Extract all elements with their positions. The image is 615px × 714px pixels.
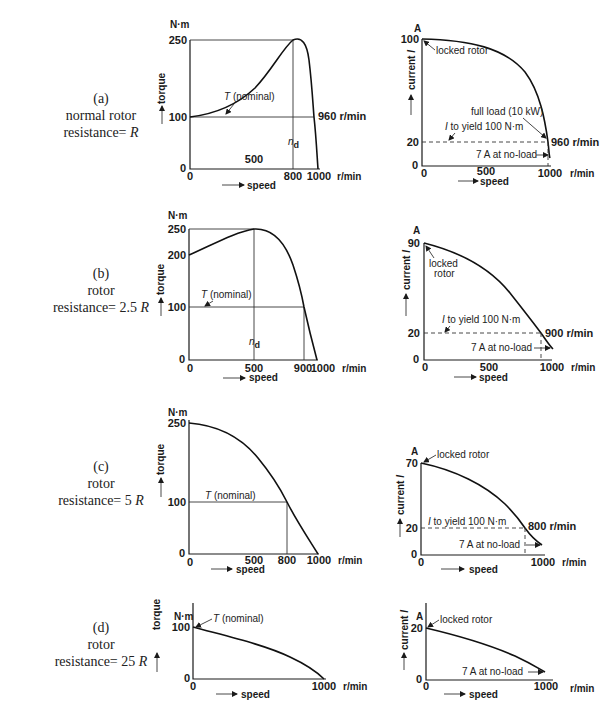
y-tick: 0 xyxy=(411,548,417,560)
full-load-arrow-icon xyxy=(523,118,546,138)
y-tick: 100 xyxy=(168,496,186,508)
y-tick: 20 xyxy=(406,522,418,534)
x-tick: 1000 xyxy=(311,362,335,374)
y-tick: 250 xyxy=(168,417,186,429)
x-tick: 500 xyxy=(245,153,263,165)
chart-d-torque: N·m 100 0 torque T (nominal) 0 1000 r/mi… xyxy=(151,598,367,700)
chart-b-torque: N·m 250 200 100 0 torque T (nominal) nd … xyxy=(155,210,366,383)
chart-a-current: A 100 20 0 current I locked rotor full l… xyxy=(401,23,600,187)
y-unit: A xyxy=(413,225,420,236)
x-unit: r/min xyxy=(343,681,367,692)
y-tick: 0 xyxy=(180,162,186,174)
nominal-arrow-icon xyxy=(205,301,213,306)
chart-a-torque: N·m 250 100 0 torque T (nominal) nd 960 … xyxy=(156,19,367,191)
x-unit: r/min xyxy=(342,363,366,374)
y-unit: A xyxy=(416,611,423,622)
x-tick: 0 xyxy=(422,361,428,373)
nominal-label: T (nominal) xyxy=(224,91,275,102)
y-tick: 250 xyxy=(168,223,186,235)
speed-annotation: 800 r/min xyxy=(528,520,577,532)
figure-canvas: N·m 250 100 0 torque T (nominal) nd 960 … xyxy=(0,0,615,714)
y-tick: 250 xyxy=(169,34,187,46)
speed-annotation: 960 r/min xyxy=(318,110,367,122)
speed-annotation: 960 r/min xyxy=(551,136,600,148)
x-axis-label: speed xyxy=(236,564,265,575)
x-tick: 0 xyxy=(418,556,424,568)
nd-label: nd xyxy=(249,336,260,350)
axes xyxy=(189,420,319,554)
x-axis-label: speed xyxy=(241,689,270,700)
x-tick: 0 xyxy=(421,167,427,179)
nominal-label: T (nominal) xyxy=(213,613,264,624)
x-axis-label: speed xyxy=(480,176,509,187)
y-axis-label: torque xyxy=(151,598,162,630)
x-unit: r/min xyxy=(570,683,594,694)
torque-curve xyxy=(193,627,324,679)
x-tick: 1000 xyxy=(538,167,562,179)
x-unit: r/min xyxy=(338,555,362,566)
x-axis-label: speed xyxy=(247,180,276,191)
no-load-label: 7 A at no-load xyxy=(476,149,537,160)
y-unit: A xyxy=(411,446,418,457)
y-tick: 0 xyxy=(416,673,422,685)
x-axis-label: speed xyxy=(479,372,508,383)
locked-rotor-label: locked rotor xyxy=(440,614,493,625)
y-tick: 20 xyxy=(407,136,419,148)
y-tick: 200 xyxy=(168,249,186,261)
chart-c-torque: N·m 250 100 0 torque T (nominal) 0 500 8… xyxy=(155,407,362,575)
y-tick: 0 xyxy=(179,353,185,365)
x-tick: 0 xyxy=(187,362,193,374)
locked-rotor-arrow-icon xyxy=(428,620,439,627)
y-axis-label: current I xyxy=(395,475,406,515)
x-tick: 0 xyxy=(187,556,193,568)
y-tick: 0 xyxy=(412,159,418,171)
x-tick: 1000 xyxy=(531,556,555,568)
x-tick: 1000 xyxy=(534,680,558,692)
x-axis-label: speed xyxy=(249,372,278,383)
current-curve xyxy=(422,39,550,158)
y-tick: 0 xyxy=(413,353,419,365)
y-tick: 20 xyxy=(408,327,420,339)
y-tick: 100 xyxy=(169,111,187,123)
no-load-label: 7 A at no-load xyxy=(462,666,523,677)
locked-rotor-arrow-icon xyxy=(426,246,434,258)
x-unit: r/min xyxy=(562,557,586,568)
y-unit: N·m xyxy=(168,210,188,221)
speed-annotation: 900 r/min xyxy=(545,327,594,339)
nominal-label: T (nominal) xyxy=(205,490,256,501)
y-axis-label: current I xyxy=(406,50,417,90)
yield-label: I to yield 100 N·m xyxy=(442,314,520,325)
x-tick: 800 xyxy=(278,554,296,566)
y-tick: 100 xyxy=(168,301,186,313)
current-curve xyxy=(421,463,542,545)
y-axis-label: torque xyxy=(155,443,166,475)
x-tick: 0 xyxy=(423,680,429,692)
y-tick: 20 xyxy=(411,622,423,634)
yield-label: I to yield 100 N·m xyxy=(428,516,506,527)
nominal-arrow-icon xyxy=(196,619,212,627)
x-tick: 1000 xyxy=(307,170,331,182)
yield-arrow-icon xyxy=(445,326,450,332)
locked-rotor-arrow-icon xyxy=(424,455,436,462)
chart-d-current: A 20 0 current I locked rotor 7 A at no-… xyxy=(399,603,594,700)
locked-rotor-label: rotor xyxy=(434,268,455,279)
y-axis-label: current I xyxy=(401,250,412,290)
x-tick: 1000 xyxy=(307,554,331,566)
x-unit: r/min xyxy=(570,168,594,179)
chart-c-current: A 70 20 0 current I locked rotor I to yi… xyxy=(395,446,586,575)
full-load-label: full load (10 kW) xyxy=(471,106,543,117)
x-unit: r/min xyxy=(337,171,361,182)
y-axis-label: torque xyxy=(155,263,166,295)
x-unit: r/min xyxy=(571,362,595,373)
y-tick: 100 xyxy=(401,33,419,45)
x-tick: 900 xyxy=(294,362,312,374)
x-tick: 0 xyxy=(190,680,196,692)
locked-rotor-label: locked rotor xyxy=(436,45,489,56)
no-load-label: 7 A at no-load xyxy=(471,342,532,353)
axes xyxy=(190,40,320,169)
x-tick: 0 xyxy=(187,170,193,182)
chart-b-current: A 90 20 0 current I locked rotor I to yi… xyxy=(401,225,595,383)
nominal-label: T (nominal) xyxy=(201,289,252,300)
locked-rotor-arrow-icon xyxy=(424,41,435,50)
no-load-label: 7 A at no-load xyxy=(459,539,520,550)
